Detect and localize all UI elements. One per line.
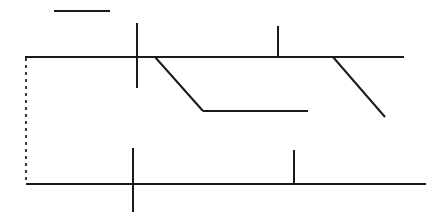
diagram-svg	[0, 0, 445, 220]
line-diagram-canvas	[0, 0, 445, 220]
